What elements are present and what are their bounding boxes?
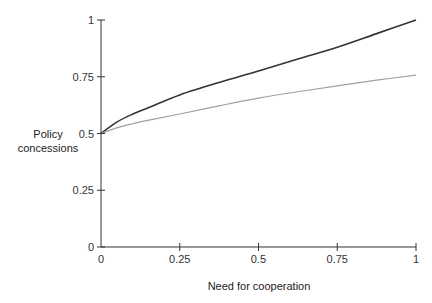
y-tick-label: 0.75 [73, 71, 94, 83]
chart: 00.250.50.751 00.250.50.751 Policy conce… [0, 0, 432, 303]
y-tick-label: 0.25 [73, 184, 94, 196]
x-tick-label: 0 [98, 253, 104, 265]
y-tick-label: 1 [88, 14, 94, 26]
series-line-lower [101, 75, 416, 133]
series-line-upper [101, 20, 416, 134]
y-axis-label-line1: Policy [33, 128, 63, 140]
y-ticks: 00.250.50.751 [73, 14, 105, 253]
x-axis-label: Need for cooperation [208, 280, 311, 292]
x-ticks: 00.250.50.751 [98, 243, 419, 265]
x-tick-label: 1 [413, 253, 419, 265]
y-tick-label: 0.5 [79, 128, 94, 140]
x-tick-label: 0.5 [251, 253, 266, 265]
x-tick-label: 0.25 [169, 253, 190, 265]
y-tick-label: 0 [88, 241, 94, 253]
x-tick-label: 0.75 [327, 253, 348, 265]
series-layer [101, 20, 416, 134]
y-axis-label-line2: concessions [18, 142, 79, 154]
